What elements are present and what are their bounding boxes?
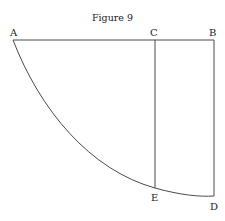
geometric-diagram (0, 0, 225, 221)
label-d: D (210, 201, 218, 212)
label-e: E (151, 192, 158, 203)
curve-aed (13, 40, 214, 196)
label-c: C (150, 27, 158, 38)
label-b: B (209, 27, 216, 38)
label-a: A (10, 27, 17, 38)
